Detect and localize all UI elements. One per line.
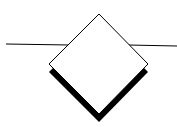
decision-diamond	[49, 14, 148, 114]
diagram-canvas	[0, 0, 177, 132]
connector-right	[128, 45, 177, 46]
connector-left	[6, 44, 70, 45]
